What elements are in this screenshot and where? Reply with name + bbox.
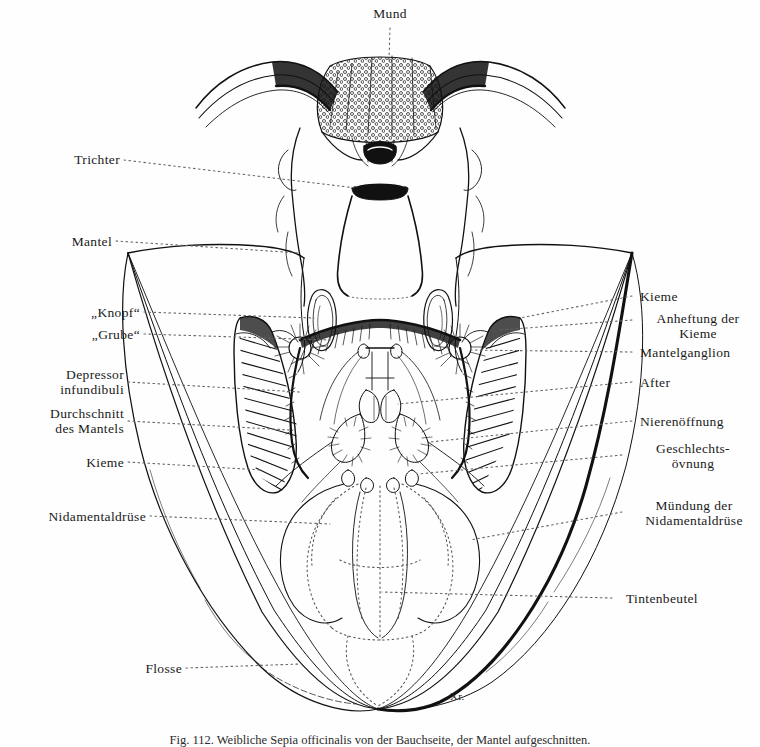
label-kieme-right: Kieme: [640, 289, 760, 304]
figure-caption: Fig. 112. Weibliche Sepia officinalis vo…: [0, 733, 760, 747]
label-tintenbeutel: Tintenbeutel: [626, 591, 756, 606]
artist-signature: Xr.: [450, 690, 465, 702]
label-trichter: Trichter: [0, 152, 120, 167]
label-muendung-der-nidamentaldruese: Mündung der Nidamentaldrüse: [628, 498, 760, 528]
label-geschlechtsoeffnung: Geschlechts- övnung: [632, 441, 754, 471]
label-grube: „Grube“: [0, 327, 140, 342]
label-flosse: Flosse: [0, 661, 182, 676]
label-kieme-left: Kieme: [0, 455, 124, 470]
label-nidamentaldruese: Nidamentaldrüse: [0, 509, 146, 524]
label-durchschnitt-des-mantels: Durchschnitt des Mantels: [0, 406, 124, 436]
label-anheftung-der-kieme: Anheftung der Kieme: [636, 311, 760, 341]
label-mantelganglion: Mantelganglion: [640, 345, 760, 360]
label-knopf: „Knopf“: [0, 305, 140, 320]
label-after: After: [640, 375, 750, 390]
label-nierenoeffnung: Nierenöffnung: [640, 414, 760, 429]
label-mund: Mund: [340, 6, 440, 21]
label-mantel: Mantel: [0, 234, 112, 249]
label-depressor-infundibuli: Depressor infundibuli: [0, 367, 124, 397]
